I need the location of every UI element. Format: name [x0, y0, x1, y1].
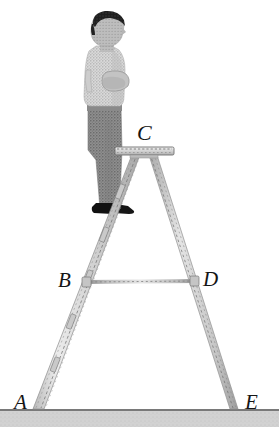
crossbar-hinge-right: [190, 276, 199, 286]
person-upper-arm-back: [85, 70, 92, 92]
ladder-crossbar: [82, 276, 199, 287]
stepladder-figure: A B C D E: [0, 0, 279, 427]
ground-fill: [0, 411, 279, 427]
vertex-label-e: E: [245, 392, 258, 413]
crossbar-hinge-left: [82, 277, 91, 287]
platform-lip: [130, 155, 158, 158]
person-forearm: [102, 77, 125, 90]
stepladder-illustration: [0, 0, 279, 427]
vertex-label-d: D: [203, 269, 218, 290]
vertex-label-b: B: [58, 270, 71, 291]
ground: [0, 410, 279, 427]
vertex-label-c: C: [137, 122, 152, 144]
ladder-top-platform: [115, 147, 174, 158]
vertex-label-a: A: [14, 392, 27, 413]
platform-body: [115, 147, 174, 155]
person-nose: [122, 27, 126, 35]
